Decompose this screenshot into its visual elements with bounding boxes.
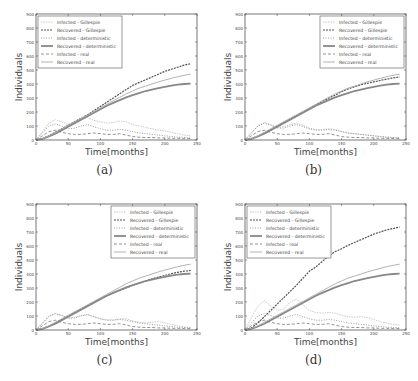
y-tick-label: 600 — [235, 244, 243, 249]
series-line-2 — [36, 64, 191, 140]
y-axis-label: Individuals — [14, 242, 24, 291]
legend: Infected - GillespieRecovered - Gillespi… — [247, 206, 331, 258]
series-line-6 — [36, 74, 191, 140]
y-tick-label: 900 — [235, 202, 243, 207]
legend: Infected - GillespieRecovered - Gillespi… — [38, 16, 122, 68]
legend-entry: Infected - real — [339, 52, 371, 57]
x-tick-label: 150 — [129, 331, 137, 336]
legend-entry: Infected - real — [130, 242, 162, 247]
y-tick-label: 200 — [235, 110, 243, 115]
legend-entry: Recovered - Gillespie — [57, 28, 106, 33]
series-line-5 — [36, 320, 191, 330]
x-tick-label: 100 — [306, 141, 314, 146]
x-axis-label: Time[months] — [293, 147, 357, 157]
legend: Infected - GillespieRecovered - Gillespi… — [320, 16, 404, 68]
x-tick-label: 0 — [244, 141, 247, 146]
y-tick-label: 100 — [235, 124, 243, 129]
y-tick-label: 200 — [26, 300, 34, 305]
x-tick-label: 200 — [370, 141, 378, 146]
legend: Infected - GillespieRecovered - Gillespi… — [111, 206, 195, 258]
y-tick-label: 400 — [235, 272, 243, 277]
y-tick-label: 500 — [26, 68, 34, 73]
x-tick-label: 100 — [97, 141, 105, 146]
y-tick-label: 600 — [26, 54, 34, 59]
chart-b: 0100200300400500600700800900050100150200… — [209, 0, 418, 190]
series-line-1 — [36, 118, 191, 140]
legend-entry: Infected - real — [57, 52, 89, 57]
series-line-5 — [245, 130, 400, 140]
panel-b: 0100200300400500600700800900050100150200… — [209, 0, 418, 190]
legend-entry: Recovered - deterministic — [339, 44, 398, 49]
caption-a: (a) — [0, 163, 209, 177]
y-tick-label: 900 — [235, 12, 243, 17]
x-tick-label: 50 — [66, 331, 72, 336]
panel-a: 0100200300400500600700800900050100150200… — [0, 0, 209, 190]
series-line-6 — [245, 74, 400, 140]
y-tick-label: 700 — [26, 230, 34, 235]
x-tick-label: 50 — [275, 141, 281, 146]
legend-entry: Recovered - deterministic — [130, 234, 189, 239]
y-tick-label: 100 — [26, 124, 34, 129]
legend-entry: Infected - Gillespie — [266, 210, 309, 215]
y-tick-label: 300 — [235, 96, 243, 101]
legend-entry: Recovered - Gillespie — [339, 28, 388, 33]
y-axis-label: Individuals — [14, 52, 24, 101]
x-tick-label: 150 — [338, 141, 346, 146]
legend-entry: Recovered - real — [339, 60, 377, 65]
legend-entry: Infected - Gillespie — [57, 20, 100, 25]
legend-entry: Recovered - Gillespie — [266, 218, 315, 223]
x-tick-label: 200 — [370, 331, 378, 336]
y-tick-label: 800 — [235, 26, 243, 31]
y-tick-label: 200 — [26, 110, 34, 115]
y-tick-label: 300 — [26, 286, 34, 291]
x-tick-label: 150 — [338, 331, 346, 336]
series-line-5 — [245, 320, 400, 330]
caption-d: (d) — [209, 353, 418, 367]
x-tick-label: 200 — [161, 331, 169, 336]
y-tick-label: 800 — [26, 216, 34, 221]
y-tick-label: 200 — [235, 300, 243, 305]
x-tick-label: 0 — [244, 331, 247, 336]
x-tick-label: 50 — [275, 331, 281, 336]
x-tick-label: 100 — [306, 331, 314, 336]
y-tick-label: 700 — [26, 40, 34, 45]
x-tick-label: 250 — [402, 141, 410, 146]
caption-c: (c) — [0, 353, 209, 367]
x-axis-label: Time[months] — [84, 337, 148, 347]
legend-entry: Recovered - deterministic — [266, 234, 325, 239]
caption-b: (b) — [209, 163, 418, 177]
y-tick-label: 700 — [235, 40, 243, 45]
y-tick-label: 600 — [26, 244, 34, 249]
y-tick-label: 500 — [235, 258, 243, 263]
legend-entry: Recovered - deterministic — [57, 44, 116, 49]
y-tick-label: 800 — [235, 216, 243, 221]
legend-entry: Infected - deterministic — [266, 226, 320, 231]
y-tick-label: 100 — [235, 314, 243, 319]
y-tick-label: 500 — [26, 258, 34, 263]
legend-entry: Infected - Gillespie — [130, 210, 173, 215]
legend-entry: Recovered - real — [130, 250, 168, 255]
y-tick-label: 900 — [26, 202, 34, 207]
x-tick-label: 50 — [66, 141, 72, 146]
y-tick-label: 300 — [26, 96, 34, 101]
panel-d: 0100200300400500600700800900050100150200… — [209, 190, 418, 380]
y-tick-label: 300 — [235, 286, 243, 291]
y-tick-label: 600 — [235, 54, 243, 59]
chart-a: 0100200300400500600700800900050100150200… — [0, 0, 209, 190]
y-tick-label: 400 — [26, 82, 34, 87]
legend-entry: Infected - deterministic — [339, 36, 393, 41]
y-tick-label: 400 — [26, 272, 34, 277]
x-tick-label: 100 — [97, 331, 105, 336]
legend-entry: Recovered - Gillespie — [130, 218, 179, 223]
y-axis-label: Individuals — [223, 52, 233, 101]
legend-entry: Infected - deterministic — [130, 226, 184, 231]
x-tick-label: 150 — [129, 141, 137, 146]
y-tick-label: 500 — [235, 68, 243, 73]
y-tick-label: 400 — [235, 82, 243, 87]
x-tick-label: 250 — [193, 141, 201, 146]
x-axis-label: Time[months] — [293, 337, 357, 347]
x-tick-label: 200 — [161, 141, 169, 146]
y-tick-label: 800 — [26, 26, 34, 31]
y-tick-label: 700 — [235, 230, 243, 235]
legend-entry: Recovered - real — [57, 60, 95, 65]
